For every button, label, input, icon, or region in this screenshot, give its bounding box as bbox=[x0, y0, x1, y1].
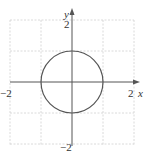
x-max-label: 2 bbox=[128, 88, 134, 99]
x-min-label: −2 bbox=[0, 88, 12, 99]
y-max-label: 2 bbox=[64, 19, 70, 30]
plot-area bbox=[0, 0, 148, 154]
axes bbox=[10, 8, 140, 146]
y-axis-arrow-icon bbox=[70, 8, 75, 15]
x-axis-arrow-icon bbox=[133, 80, 140, 85]
y-min-label: −2 bbox=[60, 142, 72, 153]
x-axis-label: x bbox=[138, 88, 143, 99]
